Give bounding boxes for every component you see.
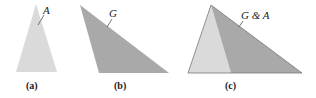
caption-b: (b) — [114, 80, 126, 92]
leader-line-b — [107, 19, 112, 27]
label-g: G — [109, 7, 117, 19]
caption-c: (c) — [225, 80, 236, 92]
triangle-figures-diagram: A (a) G (b) G & A (c) — [0, 0, 316, 98]
caption-a: (a) — [26, 80, 38, 92]
figure-b: G (b) — [80, 5, 169, 92]
figure-a: A (a) — [16, 4, 57, 92]
leader-line-c — [239, 21, 243, 27]
label-g-and-a: G & A — [241, 9, 270, 21]
triangle-a-area — [16, 4, 57, 72]
figure-c: G & A (c) — [188, 5, 302, 92]
label-a: A — [42, 4, 50, 16]
triangle-b-area — [80, 5, 169, 73]
